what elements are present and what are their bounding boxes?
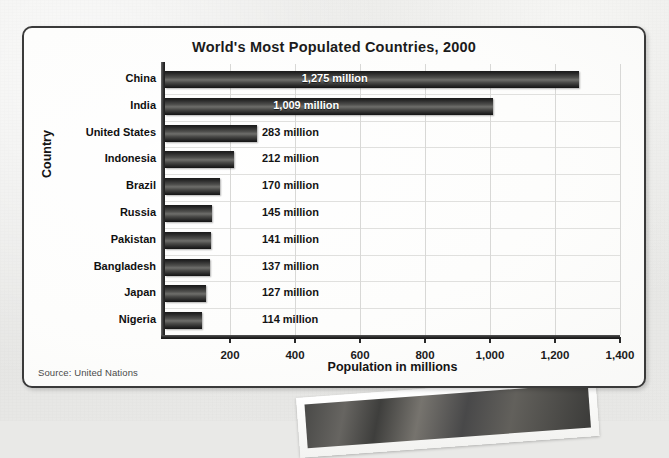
chart-title: World's Most Populated Countries, 2000: [24, 39, 644, 55]
bar-category-label: Bangladesh: [94, 260, 156, 272]
bar-category-label: India: [130, 99, 156, 111]
bar-value-label: 1,275 million: [302, 72, 368, 84]
y-axis-spine: [161, 62, 165, 339]
x-axis-label: Population in millions: [165, 360, 620, 374]
bar-category-label: Russia: [120, 206, 156, 218]
x-axis-spine: [161, 335, 620, 339]
bar-category-label: Indonesia: [105, 152, 156, 164]
bar-row[interactable]: Japan127 million: [165, 281, 620, 308]
bar-category-label: United States: [86, 126, 156, 138]
source-note: Source: United Nations: [38, 367, 138, 378]
bar-value-label: 145 million: [262, 206, 319, 218]
bar-category-label: China: [125, 72, 156, 84]
bar[interactable]: [165, 151, 234, 168]
bar-value-label: 1,009 million: [273, 99, 339, 111]
bar-category-label: Brazil: [126, 179, 156, 191]
bar-row[interactable]: Pakistan141 million: [165, 228, 620, 255]
bar[interactable]: [165, 285, 206, 302]
bar[interactable]: [165, 259, 210, 276]
bar-category-label: Nigeria: [119, 313, 156, 325]
bar-row[interactable]: Brazil170 million: [165, 174, 620, 201]
bar-row[interactable]: Bangladesh137 million: [165, 255, 620, 282]
bar-value-label: 114 million: [262, 313, 318, 325]
bar-value-label: 137 million: [262, 260, 319, 272]
bar-value-label: 127 million: [262, 286, 319, 298]
y-axis-label: Country: [40, 130, 54, 178]
bar[interactable]: [165, 232, 211, 249]
bar-value-label: 141 million: [262, 233, 319, 245]
bar[interactable]: [165, 205, 212, 222]
gridline-vertical: [620, 64, 621, 335]
plot-area: 2004006008001,0001,2001,400 China1,275 m…: [165, 67, 620, 335]
chart-panel: World's Most Populated Countries, 2000 C…: [22, 26, 646, 388]
bar[interactable]: [165, 71, 579, 88]
bar-value-label: 170 million: [262, 179, 319, 191]
bar-value-label: 212 million: [262, 152, 319, 164]
bar-row[interactable]: China1,275 million: [165, 67, 620, 94]
bottom-photo-image: [304, 384, 590, 449]
bar-category-label: Japan: [124, 286, 156, 298]
bar-row[interactable]: Russia145 million: [165, 201, 620, 228]
bar-category-label: Pakistan: [111, 233, 156, 245]
bar-value-label: 283 million: [262, 126, 319, 138]
bar[interactable]: [165, 125, 257, 142]
bar-row[interactable]: India1,009 million: [165, 94, 620, 121]
bar[interactable]: [165, 312, 202, 329]
bar-row[interactable]: United States283 million: [165, 121, 620, 148]
bar[interactable]: [165, 178, 220, 195]
bar-row[interactable]: Nigeria114 million: [165, 308, 620, 335]
bar-row[interactable]: Indonesia212 million: [165, 147, 620, 174]
